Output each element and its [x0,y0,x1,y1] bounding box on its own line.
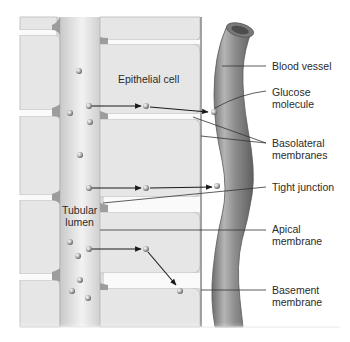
callout-basolateral-membranes: Basolateral membranes [272,137,327,161]
callout-tight-junction: Tight junction [272,181,334,193]
callout-basement-membrane: Basement membrane [272,284,322,308]
callout-glucose-molecule: Glucose molecule [272,86,314,110]
epithelial-cell-label: Epithelial cell [118,73,179,85]
tubular-lumen-label: Tubular lumen [62,204,97,228]
callout-apical-membrane: Apical membrane [272,223,322,247]
callout-blood-vessel: Blood vessel [272,60,332,72]
left-cell-column [20,17,60,327]
